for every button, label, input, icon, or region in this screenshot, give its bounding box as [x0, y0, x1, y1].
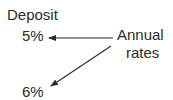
- arrows-layer: [0, 0, 173, 100]
- arrow-to-6-percent: [51, 46, 111, 86]
